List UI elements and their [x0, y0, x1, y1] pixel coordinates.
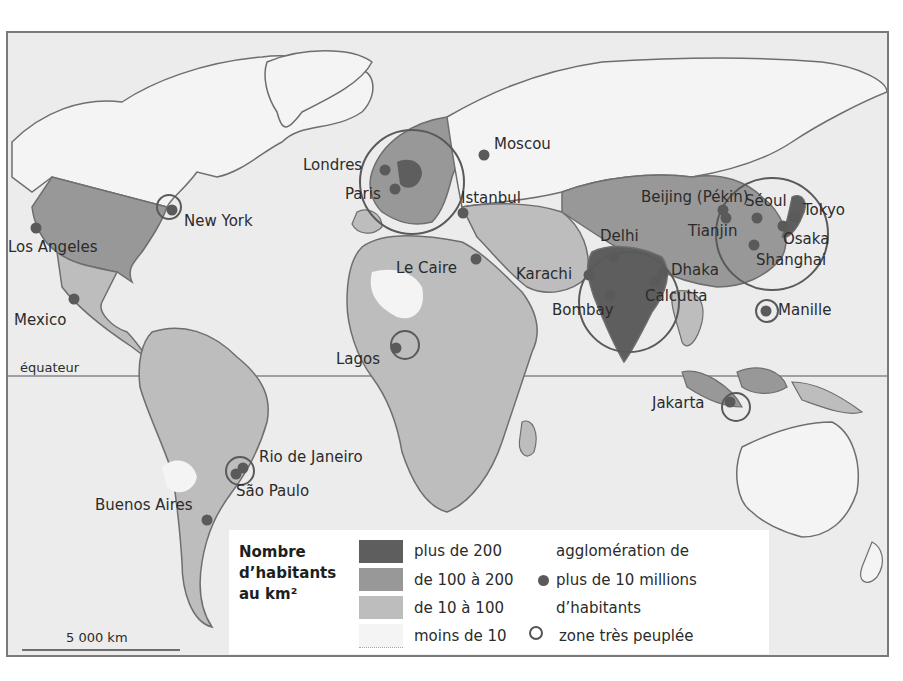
- swatch-over-200: [359, 540, 403, 563]
- city-label: Rio de Janeiro: [259, 450, 363, 465]
- legend-title-line-2: d’habitants: [239, 563, 336, 584]
- city-dot: [231, 469, 242, 480]
- city-dot: [380, 165, 391, 176]
- borneo: [737, 368, 787, 393]
- legend-dense-zone-label: zone très peuplée: [559, 627, 694, 645]
- city-dot: [202, 515, 213, 526]
- city-dot: [790, 212, 801, 223]
- city-dot: [605, 290, 616, 301]
- city-label: Moscou: [494, 137, 551, 152]
- city-label: Tianjin: [688, 224, 737, 239]
- city-dot: [471, 254, 482, 265]
- city-label: Istanbul: [461, 191, 521, 206]
- swatch-under-10: [359, 624, 403, 648]
- city-label: Jakarta: [652, 396, 704, 411]
- city-dot: [725, 397, 736, 408]
- map-legend: Nombre d’habitants au km² plus de 200 de…: [229, 530, 769, 654]
- city-label: Beijing (Pékin): [641, 190, 749, 205]
- city-label: Paris: [345, 187, 381, 202]
- legend-title-line-3: au km²: [239, 584, 336, 605]
- city-label: Buenos Aires: [95, 498, 193, 513]
- swatch-100-200: [359, 568, 403, 591]
- city-label: Tokyo: [803, 203, 845, 218]
- city-dot: [650, 276, 661, 287]
- city-label: Séoul: [745, 194, 787, 209]
- city-dot: [458, 208, 469, 219]
- city-label: Manille: [778, 303, 831, 318]
- city-dot: [752, 213, 763, 224]
- city-dot-icon: [538, 575, 549, 586]
- legend-title: Nombre d’habitants au km²: [239, 542, 336, 605]
- city-label: New York: [184, 214, 253, 229]
- australia: [737, 422, 858, 537]
- city-dot: [31, 223, 42, 234]
- city-dot: [761, 306, 772, 317]
- city-dot: [584, 270, 595, 281]
- scale-label: 5 000 km: [66, 630, 128, 645]
- city-label: Le Caire: [396, 261, 457, 276]
- city-label: Karachi: [516, 267, 572, 282]
- legend-agglomeration-line-3: d’habitants: [556, 599, 641, 617]
- city-label: Los Angeles: [8, 240, 98, 255]
- legend-label-under-10: moins de 10: [414, 627, 507, 645]
- dense-zone-circle-icon: [529, 626, 543, 640]
- city-dot: [749, 240, 760, 251]
- legend-agglomeration-line-1: agglomération de: [556, 542, 689, 560]
- city-dot: [479, 150, 490, 161]
- legend-label-over-200: plus de 200: [414, 542, 502, 560]
- city-label: São Paulo: [236, 484, 309, 499]
- city-label: Lagos: [336, 352, 380, 367]
- city-dot: [69, 294, 80, 305]
- legend-agglomeration-line-2: plus de 10 millions: [556, 571, 697, 589]
- city-label: Shanghai: [756, 253, 826, 268]
- city-dot: [390, 184, 401, 195]
- city-label: Delhi: [600, 229, 639, 244]
- legend-label-100-200: de 100 à 200: [414, 571, 514, 589]
- new-zealand: [861, 542, 883, 582]
- equator-label: équateur: [20, 360, 79, 375]
- legend-label-10-100: de 10 à 100: [414, 599, 504, 617]
- swatch-10-100: [359, 596, 403, 619]
- city-label: Londres: [303, 158, 362, 173]
- city-dot: [391, 343, 402, 354]
- city-label: Bombay: [552, 303, 614, 318]
- new-guinea: [792, 382, 862, 413]
- city-label: Mexico: [14, 313, 66, 328]
- city-label: Calcutta: [645, 289, 708, 304]
- city-label: Dhaka: [671, 263, 719, 278]
- city-dot: [658, 268, 669, 279]
- city-dot: [167, 205, 178, 216]
- city-dot: [609, 252, 620, 263]
- city-label: Osaka: [783, 232, 829, 247]
- madagascar: [519, 421, 536, 456]
- legend-title-line-1: Nombre: [239, 542, 336, 563]
